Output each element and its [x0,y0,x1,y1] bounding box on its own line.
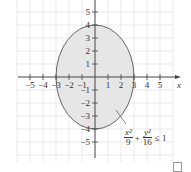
svg-text:−2: −2 [64,80,74,90]
svg-text:−5: −5 [80,137,90,147]
svg-text:5: 5 [86,7,91,17]
svg-text:4: 4 [86,20,91,30]
plus-sign: + [135,133,140,143]
x-axis-label: x [176,80,181,90]
inequality-annotation: x² 9 + y² 16 ≤ 1 [124,128,166,147]
svg-text:4: 4 [145,80,150,90]
svg-text:3: 3 [86,33,91,43]
svg-text:−5: −5 [25,80,35,90]
svg-text:5: 5 [158,80,163,90]
svg-text:−1: −1 [80,85,90,95]
svg-text:2: 2 [119,80,124,90]
fraction-x: x² 9 [124,128,133,147]
checkbox[interactable] [173,162,182,172]
svg-text:3: 3 [132,80,137,90]
svg-text:1: 1 [106,80,111,90]
x-axis-arrow-icon [175,75,181,79]
svg-text:−4: −4 [80,124,90,134]
svg-text:−2: −2 [80,98,90,108]
fraction-y: y² 16 [142,128,153,147]
relation: ≤ 1 [155,133,167,143]
svg-text:−4: −4 [38,80,48,90]
svg-text:−3: −3 [80,111,90,121]
svg-text:−3: −3 [51,80,61,90]
svg-text:1: 1 [86,59,91,69]
svg-text:2: 2 [86,46,91,56]
